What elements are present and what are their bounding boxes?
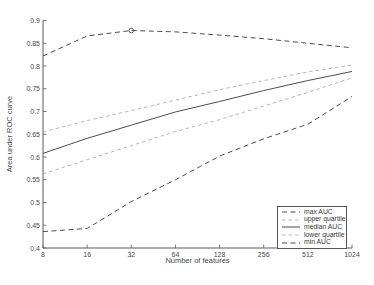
- x-tick-label: 32: [127, 251, 135, 258]
- legend-label: min AUC: [304, 239, 331, 246]
- y-tick-label: 0.8: [30, 63, 40, 70]
- x-tick-label: 128: [214, 251, 226, 258]
- legend-line-sample-icon: [281, 224, 301, 230]
- y-tick-label: 0.4: [30, 245, 40, 252]
- x-tick-label: 512: [302, 251, 314, 258]
- x-tick-label: 64: [172, 251, 180, 258]
- x-tick-label: 8: [41, 251, 45, 258]
- y-tick-label: 0.6: [30, 154, 40, 161]
- y-tick-label: 0.45: [26, 222, 40, 229]
- lower-quartile-line: [43, 78, 352, 174]
- legend-item: min AUC: [281, 239, 343, 246]
- upper-quartile-line: [43, 65, 352, 132]
- legend-line-sample-icon: [281, 232, 301, 238]
- y-axis-title: Area under ROC curve: [5, 96, 14, 172]
- y-tick-label: 0.65: [26, 131, 40, 138]
- figure: Number of features Area under ROC curve …: [0, 0, 374, 285]
- legend-line-sample-icon: [281, 209, 301, 215]
- legend-line-sample-icon: [281, 217, 301, 223]
- legend-item: median AUC: [281, 224, 343, 231]
- y-tick-label: 0.55: [26, 176, 40, 183]
- legend-line-sample-icon: [281, 240, 301, 246]
- legend: max AUCupper quartilemedian AUClower qua…: [277, 206, 347, 249]
- y-tick-label: 0.5: [30, 199, 40, 206]
- x-tick-label: 256: [258, 251, 270, 258]
- median-auc-line: [43, 71, 352, 153]
- x-tick-label: 1024: [344, 251, 360, 258]
- x-tick-label: 16: [83, 251, 91, 258]
- y-tick-label: 0.75: [26, 85, 40, 92]
- y-tick-label: 0.85: [26, 40, 40, 47]
- max-auc-line: [43, 31, 352, 56]
- y-tick-label: 0.7: [30, 108, 40, 115]
- series-lines: [43, 28, 352, 231]
- legend-label: median AUC: [304, 224, 342, 231]
- y-tick-label: 0.9: [30, 17, 40, 24]
